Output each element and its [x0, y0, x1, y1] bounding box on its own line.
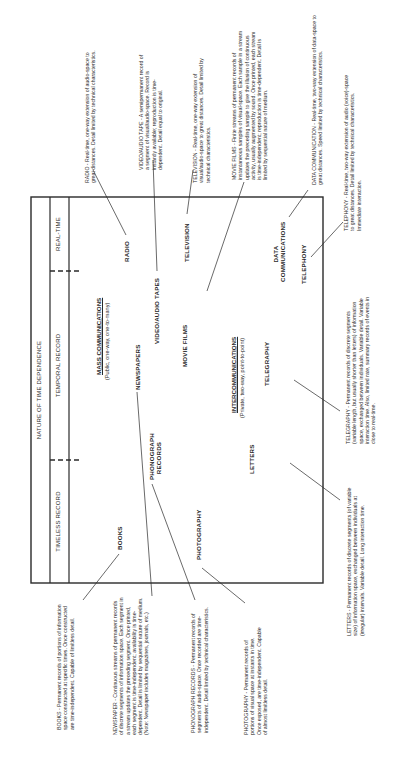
group-mass-communications-subtitle: (Public, one-way, one-to-many): [104, 304, 110, 380]
label-radio: RADIO: [123, 241, 130, 262]
group-intercommunications-title: INTERCOMMUNICATIONS: [230, 343, 237, 413]
leader-photography: [202, 568, 245, 603]
group-intercommunications-subtitle: (Private, two-way, point-to-point): [239, 338, 245, 418]
time-dependence-diagram: NATURE OF TIME DEPENDENCE REAL-TIME TEMP…: [0, 0, 396, 759]
desc-letters: LETTERS - Permanent records of discrete …: [346, 486, 365, 636]
desc-photography: PHOTOGRAPHY - Permanent records of porti…: [243, 625, 268, 735]
label-movie-films: MOVIE FILMS: [181, 325, 188, 367]
label-video-audio-tapes: VIDEO/AUDIO TAPES: [153, 278, 160, 344]
label-data-line2: COMMUNICATIONS: [279, 226, 286, 282]
column-real-time: REAL-TIME: [55, 197, 62, 271]
desc-movie-films: MOVIE FILMS - Finite streams of permanen…: [231, 30, 269, 180]
header-title: NATURE OF TIME DEPENDENCE: [36, 197, 43, 583]
desc-video-audio-tape: VIDEO/AUDIO TAPE - A semipermanent recor…: [138, 54, 163, 170]
label-data-communications: DATA COMMUNICATIONS: [272, 226, 286, 282]
label-telegraphy: TELEGRAPHY: [263, 342, 270, 386]
desc-phonograph-records: PHONOGRAPH RECORDS - Permanent records o…: [190, 603, 209, 733]
leader-telegraphy: [294, 380, 340, 411]
label-photography: PHOTOGRAPHY: [195, 509, 202, 560]
label-phonograph-line2: RECORDS: [155, 436, 162, 480]
leader-video-tapes: [153, 160, 157, 271]
label-newspapers: NEWSPAPERS: [134, 344, 141, 390]
group-mass-communications-title: MASS COMMUNICATIONS: [95, 309, 102, 375]
column-timeless-record: TIMELESS RECORD: [55, 460, 62, 583]
desc-books: BOOKS - Permanent records of portions of…: [56, 598, 75, 730]
label-data-line1: DATA: [272, 226, 279, 282]
label-books: BOOKS: [116, 526, 123, 550]
desc-data-communication: DATA COMMUNICATION - Real-time, two-way …: [311, 9, 324, 185]
desc-telephony: TELEPHONY - Real-time, two-way extension…: [343, 71, 362, 231]
label-phonograph-records: PHONOGRAPH RECORDS: [148, 436, 162, 480]
desc-newspaper: NEWSPAPER - Continuous streams of perman…: [112, 595, 150, 735]
label-telephony: TELEPHONY: [300, 244, 307, 284]
desc-radio: RADIO - Real-time, one-way extension of …: [84, 45, 97, 183]
desc-telegraphy: TELEGRAPHY - Permanent records of discre…: [345, 296, 376, 444]
leader-data-comm: [289, 190, 308, 217]
label-letters: LETTERS: [248, 444, 255, 474]
leader-newspapers: [137, 392, 152, 596]
label-phonograph-line1: PHONOGRAPH: [148, 436, 155, 480]
label-television: TELEVISION: [183, 223, 190, 262]
leader-telephony: [311, 222, 343, 257]
leader-movie-films: [207, 182, 244, 291]
leader-letters: [290, 463, 340, 500]
leader-books: [83, 554, 119, 600]
desc-television: TELEVISION - Real-time, one-way extensio…: [192, 45, 211, 183]
column-temporal-record: TEMPORAL RECORD: [55, 271, 62, 460]
leader-radio: [93, 170, 126, 235]
